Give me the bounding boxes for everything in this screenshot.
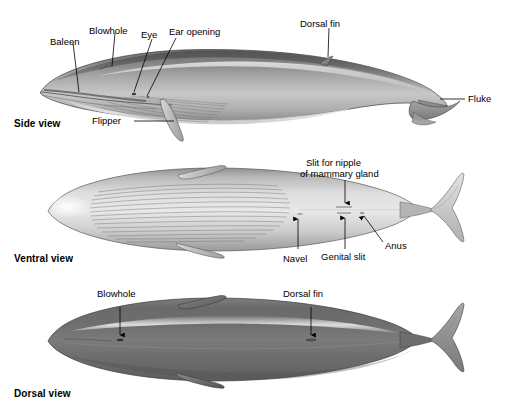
label-of-mammary-gland: of mammary gland [300,168,379,179]
label-genital-slit: Genital slit [321,251,365,262]
label-navel: Navel [283,253,307,264]
label-dorsal-fin-dorsal: Dorsal fin [283,288,323,299]
label-blowhole-dorsal: Blowhole [97,288,136,299]
side-view-illustration [40,50,460,142]
label-fluke: Fluke [468,93,491,104]
dorsal-fin-mark [306,339,317,342]
leader-dorsal-fin [328,28,329,57]
whale-diagram-canvas [0,0,512,410]
caption-ventral-view: Ventral view [14,253,73,264]
dorsal-view-fluke [430,303,464,372]
label-baleen: Baleen [50,36,80,47]
label-anus: Anus [385,240,407,251]
label-blowhole: Blowhole [89,25,128,36]
label-ear-opening: Ear opening [169,26,220,37]
ventral-view-rostrum-glow [52,191,120,225]
caption-side-view: Side view [14,118,60,129]
dorsal-view-illustration [48,296,464,389]
whale-anatomy-figure: Baleen Blowhole Eye Ear opening Dorsal f… [0,0,512,410]
dorsal-blowhole-mark [117,339,124,341]
caption-dorsal-view: Dorsal view [14,388,71,399]
ventral-view-fluke [430,173,464,242]
ventral-anus-mark [360,212,365,214]
ventral-navel-mark [297,213,303,215]
label-slit-for-nipple: Slit for nipple [306,157,361,168]
label-dorsal-fin-side: Dorsal fin [300,18,340,29]
label-eye: Eye [141,29,157,40]
label-flipper: Flipper [92,115,121,126]
side-view-eye-mark [132,93,136,96]
dorsal-view-body [48,298,418,381]
